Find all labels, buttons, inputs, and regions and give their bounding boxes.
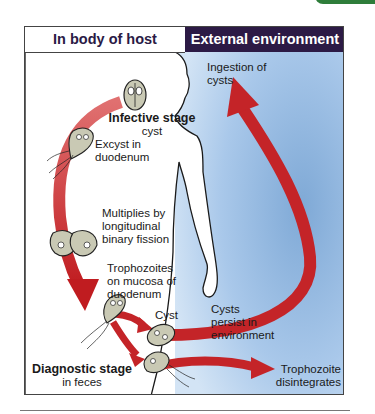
divider-line	[20, 410, 350, 411]
label-infective-stage: Infective stage cyst	[97, 112, 207, 138]
arrow-return-to-ingestion	[155, 109, 310, 335]
life-cycle-diagram: In body of host External environment	[24, 26, 344, 395]
infective-cyst-icon	[124, 80, 146, 110]
corner-tab	[315, 0, 375, 4]
label-cysts-persist: Cysts persist in environment	[211, 303, 274, 342]
arrow-trophozoite-disintegrates	[155, 361, 255, 367]
label-excyst-in-duodenum: Excyst in duodenum	[95, 138, 149, 164]
label-cyst: Cyst	[155, 309, 178, 322]
binary-fission-icon	[50, 231, 97, 256]
life-cycle-arrows	[25, 27, 344, 395]
label-multiplies-by-binary-fission: Multiplies by longitudinal binary fissio…	[102, 207, 169, 246]
label-trophozoite-disintegrates: Trophozoite disintegrates	[265, 363, 341, 389]
arrow-head-internal	[67, 279, 99, 311]
label-trophozoites-on-mucosa: Trophozoites on mucosa of duodenum	[107, 262, 176, 301]
feces-cyst-icon	[144, 321, 177, 349]
label-diagnostic-stage: Diagnostic stage in feces	[25, 363, 139, 389]
label-ingestion-of-cysts: Ingestion of cysts	[207, 61, 266, 87]
excyst-trophozoite-icon	[47, 128, 93, 179]
